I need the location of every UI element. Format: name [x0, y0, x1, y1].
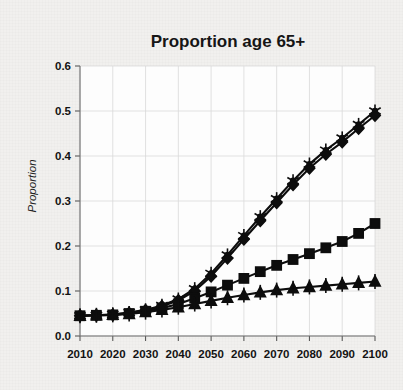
data-point-marker-square: [338, 237, 347, 246]
y-tick-label: 0.6: [55, 60, 71, 72]
data-point-marker-square: [288, 255, 297, 264]
x-tick-label: 2010: [67, 348, 93, 360]
y-tick-label: 0.4: [55, 150, 72, 162]
data-point-marker-square: [223, 281, 232, 290]
data-point-marker-square: [256, 267, 265, 276]
data-point-marker-square: [305, 249, 314, 258]
data-point-marker-square: [239, 274, 248, 283]
y-tick-label: 0.1: [55, 285, 72, 297]
x-tick-label: 2060: [231, 348, 257, 360]
x-tick-label: 2070: [264, 348, 290, 360]
x-axis-tick-labels: 2010202020302040205020602070208020902100: [67, 348, 388, 360]
x-tick-label: 2050: [198, 348, 224, 360]
x-tick-label: 2090: [329, 348, 355, 360]
y-tick-label: 0.0: [55, 330, 71, 342]
x-axis-ticks: [80, 336, 375, 341]
data-point-marker-square: [354, 229, 363, 238]
data-point-marker-square: [370, 219, 379, 228]
x-tick-label: 2040: [166, 348, 192, 360]
y-axis-tick-labels: 0.00.10.20.30.40.50.6: [55, 60, 72, 342]
chart-title: Proportion age 65+: [151, 32, 306, 51]
y-tick-label: 0.5: [55, 105, 72, 117]
y-tick-label: 0.3: [55, 195, 71, 207]
x-tick-label: 2100: [362, 348, 388, 360]
data-point-marker-square: [272, 261, 281, 270]
y-axis-title: Proportion: [26, 159, 38, 212]
chart-canvas: Proportion age 65+ Proportion 0.00.10.20…: [0, 0, 403, 390]
x-tick-label: 2030: [133, 348, 159, 360]
y-tick-label: 0.2: [55, 240, 71, 252]
figure-container: Proportion age 65+ Proportion 0.00.10.20…: [0, 0, 403, 390]
x-tick-label: 2080: [297, 348, 323, 360]
data-point-marker-square: [321, 243, 330, 252]
y-axis-ticks: [75, 66, 80, 336]
x-tick-label: 2020: [100, 348, 126, 360]
